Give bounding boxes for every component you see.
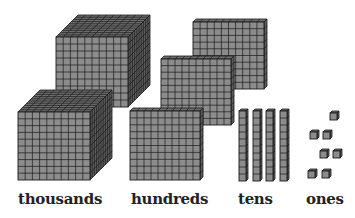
base-ten-blocks-illustration	[0, 0, 355, 218]
ones-label: ones	[306, 190, 344, 208]
thousand-cube-front	[18, 90, 112, 180]
one-cube-4	[320, 149, 329, 158]
ten-rod-2	[253, 109, 262, 181]
ten-rod-1	[239, 109, 248, 181]
ten-rod-3	[266, 109, 275, 181]
hundred-flat-front	[130, 108, 203, 180]
one-cube-2	[310, 130, 319, 139]
one-cube-6	[308, 169, 317, 178]
hundreds-label: hundreds	[131, 190, 208, 208]
ten-rod-4	[280, 109, 289, 181]
one-cube-3	[323, 130, 332, 139]
one-cube-1	[330, 111, 339, 120]
one-cube-7	[322, 169, 331, 178]
thousands-label: thousands	[18, 190, 102, 208]
one-cube-5	[333, 149, 342, 158]
tens-label: tens	[238, 190, 273, 208]
